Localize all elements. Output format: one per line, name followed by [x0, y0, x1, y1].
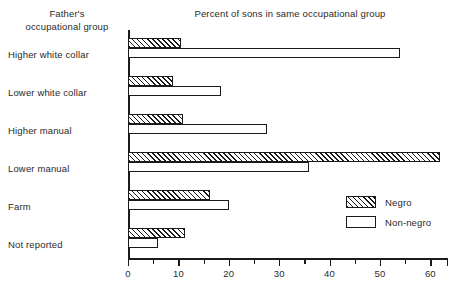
legend-swatch-hatched-icon: [346, 196, 376, 208]
x-tick-major: [229, 259, 230, 266]
bar-non-negro: [128, 48, 400, 58]
left-header-line2: occupational group: [8, 21, 126, 34]
x-tick-minor: [254, 259, 255, 264]
x-tick-label: 40: [318, 268, 342, 279]
chart-title: Percent of sons in same occupational gro…: [140, 8, 440, 19]
bar-negro: [128, 114, 183, 124]
category-label: Not reported: [8, 239, 122, 250]
category-label: Lower manual: [8, 163, 122, 174]
left-header-line1: Father's: [8, 8, 126, 21]
bar-negro: [128, 76, 173, 86]
x-tick-major: [430, 259, 431, 266]
x-tick-end: [447, 259, 448, 266]
bar-non-negro: [128, 162, 309, 172]
x-tick-label: 20: [217, 268, 241, 279]
x-tick-major: [380, 259, 381, 266]
bar-negro: [128, 152, 440, 162]
x-tick-label: 0: [116, 268, 140, 279]
category-label: Higher manual: [8, 125, 122, 136]
x-tick-minor: [304, 259, 305, 264]
chart-figure: Father's occupational group Percent of s…: [0, 0, 460, 285]
bar-non-negro: [128, 86, 221, 96]
bar-negro: [128, 38, 181, 48]
bar-negro: [128, 190, 210, 200]
x-tick-label: 50: [368, 268, 392, 279]
x-tick-major: [128, 259, 129, 266]
category-label: Farm: [8, 201, 122, 212]
x-tick-minor: [153, 259, 154, 264]
x-tick-label: 30: [267, 268, 291, 279]
left-column-header: Father's occupational group: [8, 8, 126, 33]
y-axis-line: [128, 30, 130, 258]
legend-label-negro: Negro: [385, 197, 412, 208]
legend-label-non-negro: Non-negro: [385, 217, 431, 228]
x-tick-major: [330, 259, 331, 266]
legend: Negro Non-negro: [346, 192, 456, 232]
x-tick-minor: [355, 259, 356, 264]
bar-non-negro: [128, 200, 229, 210]
x-tick-major: [279, 259, 280, 266]
x-tick-label: 60: [418, 268, 442, 279]
category-label: Lower white collar: [8, 87, 122, 98]
x-tick-minor: [204, 259, 205, 264]
category-label: Higher white collar: [8, 49, 122, 60]
x-tick-minor: [405, 259, 406, 264]
x-axis-line: [128, 258, 448, 260]
x-tick-label: 10: [166, 268, 190, 279]
x-tick-major: [178, 259, 179, 266]
bar-non-negro: [128, 124, 267, 134]
legend-swatch-open-icon: [346, 216, 376, 228]
legend-item-non-negro: Non-negro: [346, 212, 456, 232]
bar-negro: [128, 228, 185, 238]
bar-non-negro: [128, 238, 158, 248]
legend-item-negro: Negro: [346, 192, 456, 212]
